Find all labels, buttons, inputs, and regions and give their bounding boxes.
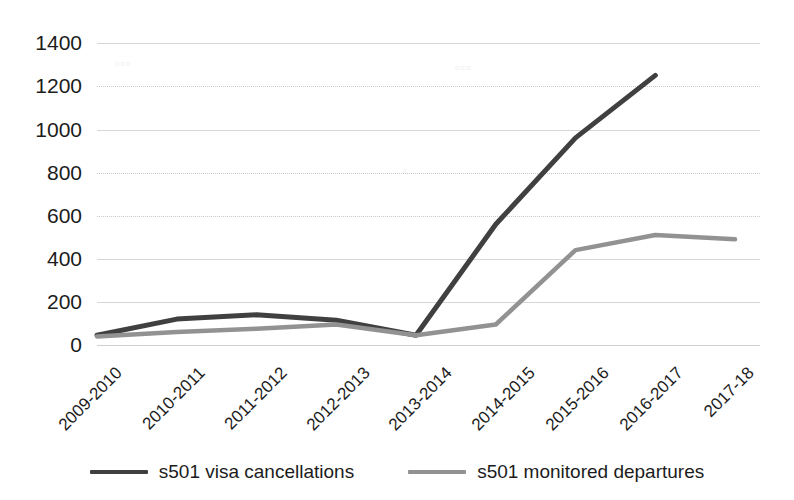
line-chart: ▫▫▫ ▫▫▫ ▫ 1400 1200 1000 800 600 400 200… <box>0 0 794 500</box>
chart-legend: s501 visa cancellations s501 monitored d… <box>0 462 794 482</box>
legend-line-swatch-icon <box>408 470 466 474</box>
x-axis: 2009-2010 2010-2011 2011-2012 2012-2013 … <box>0 0 794 500</box>
legend-item-visa-cancellations[interactable]: s501 visa cancellations <box>90 462 354 482</box>
legend-item-monitored-departures[interactable]: s501 monitored departures <box>408 462 704 482</box>
legend-label-visa-cancellations: s501 visa cancellations <box>159 462 354 482</box>
x-tick-2010-2011: 2010-2011 <box>115 364 209 458</box>
legend-line-swatch-icon <box>90 470 148 474</box>
legend-label-monitored-departures: s501 monitored departures <box>477 462 704 482</box>
x-tick-2013-2014: 2013-2014 <box>362 364 456 458</box>
x-tick-2011-2012: 2011-2012 <box>197 364 291 458</box>
x-tick-2012-2013: 2012-2013 <box>280 364 374 458</box>
x-tick-2009-2010: 2009-2010 <box>32 364 126 458</box>
